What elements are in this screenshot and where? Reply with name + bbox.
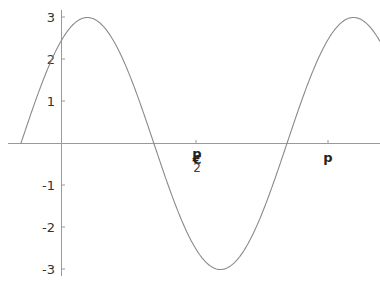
x-tick-label-pi: p: [323, 150, 332, 165]
x-label-pi-half-2: 2: [193, 161, 201, 175]
x-tick-label-pi-half: p € 2: [191, 146, 201, 175]
y-tick-label-neg2: -2: [42, 220, 55, 235]
y-tick-label-1: 1: [47, 94, 55, 109]
sine-plot: 3 2 1 -1 -2 -3 p € 2 p: [0, 0, 380, 299]
y-tick-label-neg3: -3: [42, 262, 55, 277]
y-tick-label-3: 3: [47, 10, 55, 25]
y-tick-label-neg1: -1: [42, 178, 55, 193]
